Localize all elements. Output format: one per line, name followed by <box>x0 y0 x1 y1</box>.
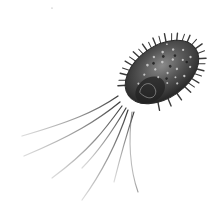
background-speck <box>51 7 52 8</box>
flagellum-7 <box>130 112 138 192</box>
flagellum-2 <box>24 102 120 156</box>
natural-image-scene <box>0 0 223 210</box>
bacterium-illustration <box>0 0 223 210</box>
flagellum-4 <box>82 108 126 168</box>
flagella <box>22 96 138 200</box>
flagellum-3 <box>52 106 122 178</box>
